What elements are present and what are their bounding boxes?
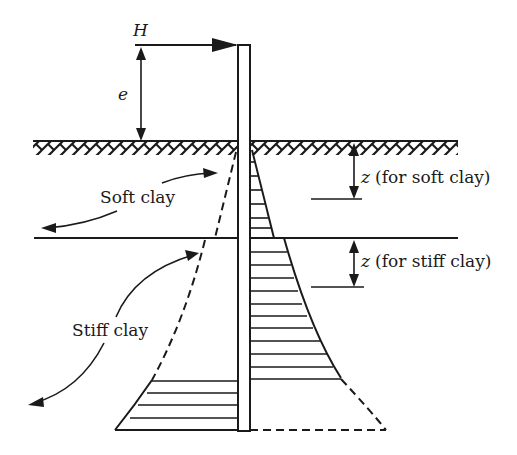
pile-diagram: H e z (for soft clay) z (for stiff clay)… — [0, 0, 517, 455]
eccentricity-dimension — [136, 47, 146, 141]
soft-clay-label: Soft clay — [100, 187, 176, 207]
eccentricity-label: e — [118, 84, 128, 104]
stiff-clay-label: Stiff clay — [72, 320, 148, 340]
z-soft-note: (for soft clay) — [375, 167, 491, 187]
soil-reaction-right — [250, 150, 386, 430]
pile — [238, 45, 250, 431]
load-label: H — [132, 20, 149, 40]
z-stiff-label: z — [360, 251, 371, 271]
z-stiff-dimension — [311, 240, 364, 287]
z-stiff-note: (for stiff clay) — [375, 251, 492, 271]
lateral-load-arrow — [135, 38, 238, 52]
z-soft-label: z — [360, 167, 371, 187]
